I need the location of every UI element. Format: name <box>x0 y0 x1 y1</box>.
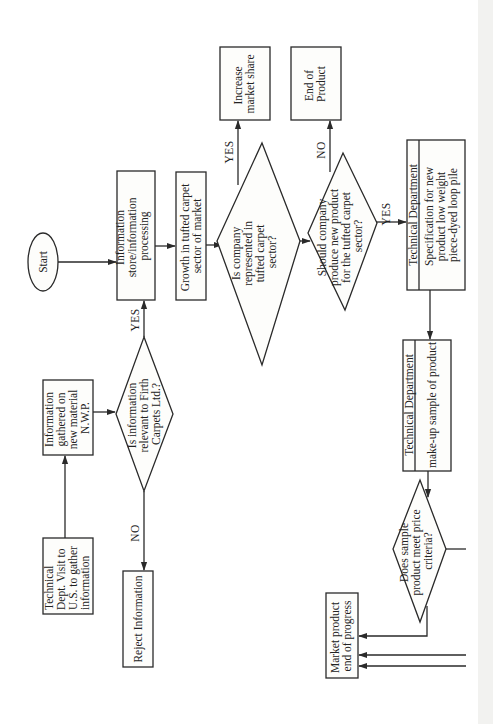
line-4: sector? <box>266 236 278 269</box>
node-info-gathered: Information gathered on new material N.W… <box>43 380 93 455</box>
start-label: Start <box>37 250 49 273</box>
label-represented-yes: YES <box>223 140 235 163</box>
line-4: sector? <box>352 220 364 253</box>
flowchart-canvas: YES NO YES YES NO Start Information stor… <box>0 0 493 724</box>
node-is-represented: Is company represented in tufted carpet … <box>217 143 300 365</box>
line-3: Carpets Ltd.? <box>150 383 163 445</box>
line-3: piece-dyed loop pile <box>447 168 460 262</box>
line-4: information <box>79 555 91 610</box>
line-2: market share <box>244 54 256 113</box>
node-market-product: Market product end of progress <box>326 593 358 678</box>
line-1: Is information <box>126 382 138 448</box>
line-1: Increase <box>232 66 244 104</box>
line-2: store/information <box>126 197 138 277</box>
page-edge-shade <box>478 0 493 724</box>
label-relevant-yes: YES <box>129 308 141 331</box>
node-tech-visit: Technical Dept. Visit to U.S. to gather … <box>43 538 93 614</box>
node-text: End of Product <box>303 65 327 102</box>
line-1: Information <box>43 392 55 447</box>
line-1: End of <box>303 70 315 101</box>
line-2: Product <box>315 65 327 102</box>
label-should-yes: YES <box>380 202 392 225</box>
node-growth: Growth in tufted carpet sector of market <box>176 172 206 300</box>
node-text: Is information relevant to Firth Carpets… <box>126 376 163 453</box>
label-relevant-no: NO <box>129 524 141 542</box>
line-3: processing <box>138 211 151 260</box>
node-text: make-up sample of product <box>426 341 439 468</box>
node-tech-sample: Technical Department make-up sample of p… <box>403 340 451 471</box>
line-1: Technical <box>43 565 55 610</box>
node-is-relevant: Is information relevant to Firth Carpets… <box>116 337 173 491</box>
node-tech-spec: Technical Department Specification for n… <box>407 140 465 290</box>
node-increase-share: Increase market share <box>220 47 270 120</box>
node-price-criteria: Does sample product meet price criteria? <box>393 480 446 622</box>
node-text: Specification for new product low weight… <box>423 164 460 266</box>
tech-spec-header: Technical Department <box>407 163 420 265</box>
label-should-no: NO <box>315 141 327 159</box>
tech-sample-header: Technical Department <box>403 353 416 455</box>
node-text: Reject Information <box>132 575 145 662</box>
line-2: relevant to Firth <box>138 378 150 452</box>
line-2: end of progress <box>341 600 354 671</box>
node-reject: Reject Information <box>123 571 153 667</box>
node-start: Start <box>28 233 58 291</box>
node-should-produce: Should company produce new product for t… <box>308 153 377 310</box>
node-end-of-product: End of Product <box>291 47 341 120</box>
line-1: Information <box>114 210 126 265</box>
line-2: sector of market <box>191 198 203 274</box>
line-4: N.W.P. <box>79 402 91 434</box>
node-text: Market product end of progress <box>329 599 354 673</box>
node-info-store: Information store/information processing <box>114 171 155 300</box>
line-3: criteria? <box>422 532 434 570</box>
line-3: new material <box>67 390 79 450</box>
